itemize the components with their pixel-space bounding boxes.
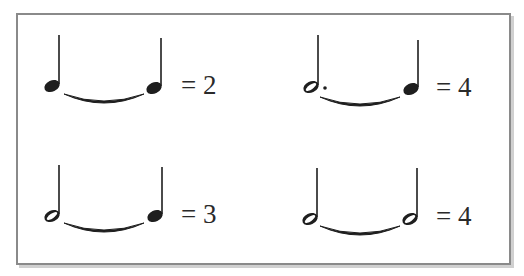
tie-icon xyxy=(320,97,400,106)
quarter-note-icon xyxy=(401,40,420,97)
example-quarter-tied-quarter xyxy=(42,35,163,103)
example-half-tied-half xyxy=(300,168,419,235)
example-dotted-half-tied-quarter xyxy=(301,35,420,106)
equals-label: = 4 xyxy=(436,203,471,230)
equals-label: = 2 xyxy=(181,72,216,99)
equals-label: = 3 xyxy=(181,201,216,228)
half-note-icon xyxy=(42,165,61,224)
dotted-half-note-icon xyxy=(301,35,326,95)
quarter-note-icon xyxy=(42,35,61,94)
equals-label: = 4 xyxy=(436,74,471,101)
example-half-tied-quarter xyxy=(42,165,164,232)
tie-icon xyxy=(64,94,144,103)
quarter-note-icon xyxy=(144,38,163,96)
tied-notes-diagram xyxy=(0,0,524,276)
half-note-icon xyxy=(400,168,419,227)
tie-icon xyxy=(320,226,400,235)
tie-icon xyxy=(64,223,144,232)
half-note-icon xyxy=(300,168,319,227)
quarter-note-icon xyxy=(145,167,164,224)
